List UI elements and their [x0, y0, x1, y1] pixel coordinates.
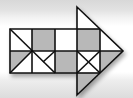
grid-lines: [10, 7, 123, 95]
diagram-canvas: [0, 0, 133, 98]
arrow-figure: [0, 0, 133, 98]
arrow-shape: [10, 7, 123, 95]
